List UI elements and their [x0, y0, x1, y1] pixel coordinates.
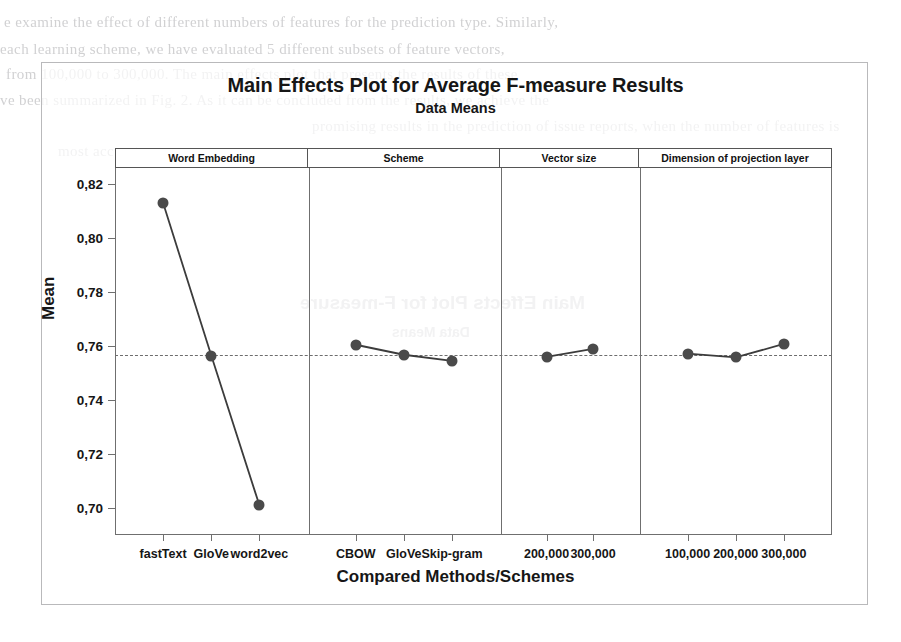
y-tick-label: 0,80 — [51, 231, 103, 246]
data-point — [588, 343, 599, 354]
data-point — [254, 500, 265, 511]
x-tick-mark — [547, 535, 548, 541]
y-tick-label: 0,72 — [51, 447, 103, 462]
y-tick-label: 0,78 — [51, 285, 103, 300]
x-tick-label: word2vec — [231, 547, 289, 561]
data-point — [206, 350, 217, 361]
x-tick-label: 300,000 — [761, 547, 806, 561]
x-tick-label: CBOW — [336, 547, 376, 561]
y-tick-mark — [108, 346, 115, 347]
data-point — [541, 351, 552, 362]
x-axis-title: Compared Methods/Schemes — [41, 567, 870, 587]
x-tick-label: 200,000 — [524, 547, 569, 561]
y-tick-label: 0,74 — [51, 393, 103, 408]
y-tick-mark — [108, 238, 115, 239]
data-point — [398, 349, 409, 360]
chart-title: Main Effects Plot for Average F-measure … — [41, 74, 870, 97]
x-tick-label: 300,000 — [570, 547, 615, 561]
y-tick-label: 0,70 — [51, 501, 103, 516]
data-point — [730, 352, 741, 363]
y-tick-mark — [108, 292, 115, 293]
x-tick-mark — [784, 535, 785, 541]
data-point — [350, 339, 361, 350]
y-tick-mark — [108, 400, 115, 401]
x-tick-mark — [163, 535, 164, 541]
main-effects-plot: Main Effects Plot for Average F-measure … — [41, 62, 870, 607]
x-tick-mark — [211, 535, 212, 541]
data-point — [158, 198, 169, 209]
x-tick-label: Skip-gram — [421, 547, 482, 561]
x-tick-label: 100,000 — [665, 547, 710, 561]
x-tick-label: 200,000 — [713, 547, 758, 561]
data-point — [682, 348, 693, 359]
x-tick-mark — [736, 535, 737, 541]
series-lines — [115, 148, 832, 535]
y-tick-mark — [108, 454, 115, 455]
ghost-line-2: each learning scheme, we have evaluated … — [0, 41, 505, 58]
x-tick-label: fastText — [140, 547, 187, 561]
x-tick-label: GloVe — [386, 547, 421, 561]
plot-area: Word EmbeddingSchemeVector sizeDimension… — [115, 148, 832, 535]
x-tick-mark — [259, 535, 260, 541]
y-tick-label: 0,76 — [51, 339, 103, 354]
data-point — [446, 355, 457, 366]
x-tick-label: GloVe — [194, 547, 229, 561]
x-tick-mark — [404, 535, 405, 541]
x-tick-mark — [452, 535, 453, 541]
y-tick-mark — [108, 508, 115, 509]
chart-subtitle: Data Means — [41, 100, 870, 116]
data-point — [778, 338, 789, 349]
x-tick-mark — [688, 535, 689, 541]
y-tick-mark — [108, 184, 115, 185]
x-tick-mark — [593, 535, 594, 541]
x-tick-mark — [356, 535, 357, 541]
ghost-line-1: e examine the effect of different number… — [4, 14, 558, 31]
y-tick-label: 0,82 — [51, 177, 103, 192]
